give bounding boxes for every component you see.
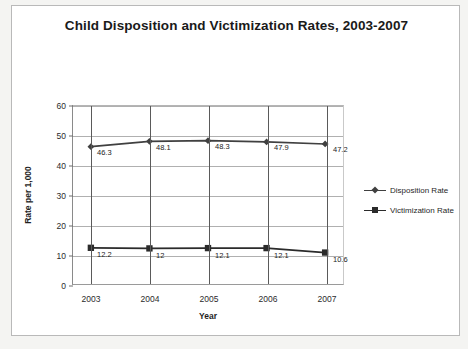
gridline-vertical <box>268 106 269 284</box>
y-axis-tick-label: 30 <box>57 191 66 201</box>
gridline-vertical <box>209 106 210 284</box>
series-lines <box>73 106 343 284</box>
data-point-label: 48.1 <box>156 142 171 151</box>
legend-marker <box>371 186 378 193</box>
y-axis-tick-mark <box>69 166 73 167</box>
data-point-label: 48.3 <box>215 142 230 151</box>
legend-label: Victimization Rate <box>390 206 454 215</box>
y-axis-tick-label: 50 <box>57 131 66 141</box>
diamond-marker-icon <box>364 185 386 195</box>
x-axis-tick-label: 2003 <box>82 294 101 304</box>
data-point-marker <box>205 245 211 251</box>
chart-legend: Disposition RateVictimization Rate <box>364 182 468 222</box>
y-axis-tick-label: 40 <box>57 161 66 171</box>
data-point-label: 12.2 <box>97 250 112 259</box>
chart-title: Child Disposition and Victimization Rate… <box>12 18 461 33</box>
y-axis-title: Rate per 1,000 <box>23 166 33 224</box>
gridline-horizontal <box>73 226 343 227</box>
data-point-label: 10.6 <box>333 255 348 264</box>
y-axis-tick-mark <box>69 226 73 227</box>
gridline-vertical <box>150 106 151 284</box>
gridline-horizontal <box>73 106 343 107</box>
gridline-vertical <box>327 106 328 284</box>
y-axis-tick-mark <box>69 136 73 137</box>
y-axis-tick-label: 60 <box>57 101 66 111</box>
y-axis-tick-label: 10 <box>57 251 66 261</box>
x-axis-tick-label: 2004 <box>141 294 160 304</box>
y-axis-tick-mark <box>69 256 73 257</box>
gridline-horizontal <box>73 166 343 167</box>
data-point-label: 12.1 <box>215 250 230 259</box>
x-axis-tick-label: 2005 <box>200 294 219 304</box>
plot-area: 01020304050602003200420052006200746.348.… <box>72 105 344 285</box>
x-axis-title: Year <box>72 311 344 321</box>
series-line <box>91 141 325 147</box>
x-axis-tick-label: 2006 <box>259 294 278 304</box>
y-axis-tick-mark <box>69 106 73 107</box>
square-marker-icon <box>364 205 386 215</box>
y-axis-tick-label: 20 <box>57 221 66 231</box>
data-point-label: 46.3 <box>97 148 112 157</box>
y-axis-tick-mark <box>69 286 73 287</box>
gridline-horizontal <box>73 256 343 257</box>
legend-label: Disposition Rate <box>390 186 448 195</box>
data-point-label: 47.9 <box>274 143 289 152</box>
y-axis-tick-mark <box>69 196 73 197</box>
gridline-horizontal <box>73 136 343 137</box>
data-point-label: 12 <box>156 251 164 260</box>
y-axis-tick-label: 0 <box>61 281 66 291</box>
legend-item[interactable]: Victimization Rate <box>364 202 468 218</box>
data-point-label: 47.2 <box>333 145 348 154</box>
legend-marker <box>372 207 378 213</box>
scanned-page-background: Child Disposition and Victimization Rate… <box>0 0 468 349</box>
series-line <box>91 248 325 253</box>
data-point-marker <box>205 137 212 144</box>
legend-item[interactable]: Disposition Rate <box>364 182 468 198</box>
x-axis-tick-label: 2007 <box>318 294 337 304</box>
gridline-vertical <box>91 106 92 284</box>
gridline-horizontal <box>73 196 343 197</box>
chart-container: Child Disposition and Victimization Rate… <box>11 5 460 336</box>
data-point-label: 12.1 <box>274 250 289 259</box>
